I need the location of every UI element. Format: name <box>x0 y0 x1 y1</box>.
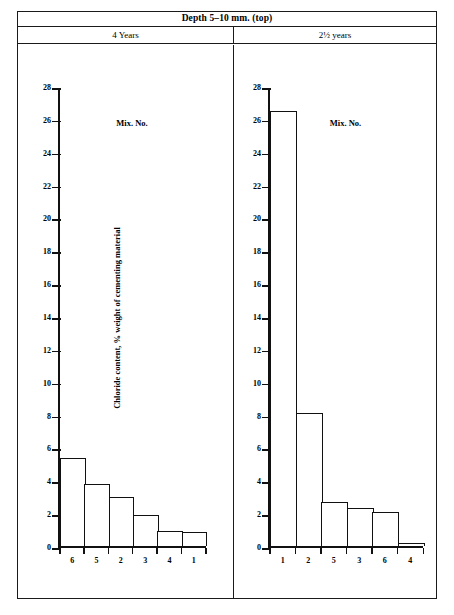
y-tick-label: 6 <box>47 445 51 453</box>
figure-title: Depth 5–10 mm. (top) <box>182 14 273 24</box>
y-tick-label: 14 <box>253 314 261 322</box>
x-tick-mark <box>205 548 207 554</box>
x-tick-mark <box>295 548 297 554</box>
x-tick-label: 5 <box>321 557 347 565</box>
y-tick-label: 16 <box>43 281 51 289</box>
x-tick-mark <box>132 548 134 554</box>
bar <box>321 502 348 546</box>
x-tick-label: 4 <box>157 557 181 565</box>
bar <box>84 484 110 546</box>
panel-subtitle-cell-right: 2½ years <box>234 27 436 43</box>
x-tick-label: 6 <box>60 557 84 565</box>
x-tick-mark <box>346 548 348 554</box>
x-tick-label: 3 <box>133 557 157 565</box>
x-tick-mark <box>156 548 158 554</box>
x-tick-label: 5 <box>84 557 108 565</box>
y-tick-label: 8 <box>257 413 261 421</box>
bar <box>157 531 183 546</box>
y-tick-label: 2 <box>47 511 51 519</box>
chart-panels: 0246810121416182022242628 652341 Mix. No… <box>18 45 436 598</box>
x-tick-mark <box>397 548 399 554</box>
figure-title-row: Depth 5–10 mm. (top) <box>18 12 436 27</box>
x-tick-mark <box>59 548 61 554</box>
x-tick-label: 2 <box>109 557 133 565</box>
bar-series-right <box>270 88 423 546</box>
bar <box>347 508 374 546</box>
x-tick-label: 3 <box>347 557 373 565</box>
y-tick-label: 14 <box>43 314 51 322</box>
y-tick-label: 10 <box>253 380 261 388</box>
x-tick-mark <box>320 548 322 554</box>
y-tick-label: 6 <box>257 445 261 453</box>
y-tick-label: 18 <box>253 248 261 256</box>
x-tick-label: 6 <box>372 557 398 565</box>
x-tick-label: 1 <box>270 557 296 565</box>
y-tick-label: 18 <box>43 248 51 256</box>
y-tick-label: 2 <box>257 511 261 519</box>
bar <box>372 512 399 546</box>
x-tick-mark <box>371 548 373 554</box>
x-tick-mark <box>269 548 271 554</box>
x-axis-title-left: Mix. No. <box>58 119 206 128</box>
y-tick-label: 0 <box>257 544 261 552</box>
chart-panel-2-half-years: 0246810121416182022242628 125364 Mix. No… <box>234 45 436 598</box>
y-axis-title-left: Chloride content, % weight of cementing … <box>113 227 122 409</box>
y-tick-label: 8 <box>47 413 51 421</box>
y-tick-label: 12 <box>253 347 261 355</box>
figure-frame: Depth 5–10 mm. (top) 4 Years 2½ years 02… <box>17 11 437 599</box>
x-tick-mark <box>83 548 85 554</box>
y-tick-label: 28 <box>43 84 51 92</box>
chart-panel-4-years: 0246810121416182022242628 652341 Mix. No… <box>18 45 234 598</box>
y-tick-label: 28 <box>253 84 261 92</box>
y-tick-label: 20 <box>43 215 51 223</box>
bar <box>60 458 86 546</box>
bar <box>182 532 208 546</box>
y-tick-label: 26 <box>43 117 51 125</box>
y-tick-label: 24 <box>253 150 261 158</box>
panel-subtitle-right: 2½ years <box>319 31 352 40</box>
bar <box>133 515 159 546</box>
x-tick-label: 4 <box>398 557 424 565</box>
y-tick-label: 20 <box>253 215 261 223</box>
x-axis-title-right: Mix. No. <box>268 119 423 128</box>
panel-subtitle-cell-left: 4 Years <box>18 27 234 43</box>
y-tick-label: 26 <box>253 117 261 125</box>
y-tick-label: 24 <box>43 150 51 158</box>
panel-subtitle-row: 4 Years 2½ years <box>18 27 436 44</box>
y-tick-label: 0 <box>47 544 51 552</box>
y-tick-label: 22 <box>253 183 261 191</box>
y-tick-label: 4 <box>257 478 261 486</box>
x-tick-mark <box>181 548 183 554</box>
panel-subtitle-left: 4 Years <box>112 31 139 40</box>
x-tick-mark <box>423 548 425 554</box>
bar <box>109 497 135 546</box>
x-tick-label: 2 <box>296 557 322 565</box>
x-tick-label: 1 <box>182 557 206 565</box>
y-tick-label: 10 <box>43 380 51 388</box>
bar <box>398 543 425 546</box>
y-tick-label: 12 <box>43 347 51 355</box>
plot-area-left: 0246810121416182022242628 652341 Mix. No… <box>58 88 206 548</box>
y-tick-label: 4 <box>47 478 51 486</box>
plot-area-right: 0246810121416182022242628 125364 Mix. No… <box>268 88 423 548</box>
x-tick-mark <box>108 548 110 554</box>
bar <box>270 111 297 546</box>
bar <box>296 413 323 546</box>
y-tick-label: 16 <box>253 281 261 289</box>
bar-series-left <box>60 88 206 546</box>
y-tick-label: 22 <box>43 183 51 191</box>
